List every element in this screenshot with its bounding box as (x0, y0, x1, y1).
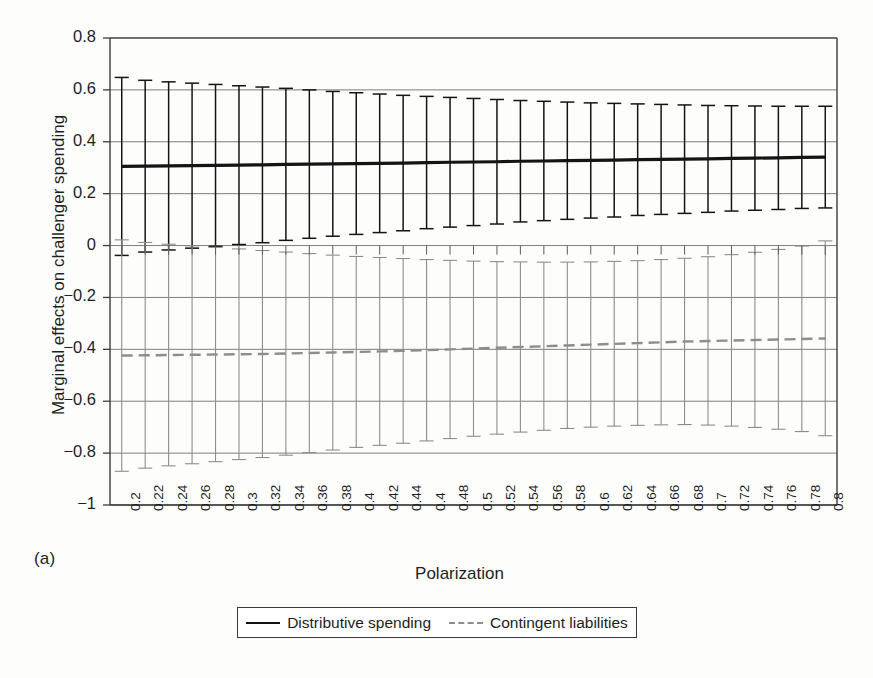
x-axis-tick-label: 0.6 (597, 492, 612, 511)
chart-legend: Distributive spending Contingent liabili… (237, 607, 637, 638)
figure-panel: Marginal effects on challenger spending … (0, 0, 873, 678)
x-axis-tick-label: 0.58 (573, 485, 588, 511)
y-axis-title: Marginal effects on challenger spending (49, 30, 69, 500)
y-axis-tick-label: −0.2 (0, 286, 96, 305)
x-axis-tick-label: 0.7 (714, 492, 729, 511)
x-axis-tick-label: 0.3 (245, 492, 260, 511)
legend-item-contingent-liabilities: Contingent liabilities (449, 614, 628, 632)
x-axis-tick-label: 0.22 (151, 485, 166, 511)
x-axis-tick-label: 0.24 (175, 485, 190, 511)
y-axis-tick-label: −0.8 (0, 442, 96, 461)
x-axis-tick-label: 0.4 (433, 492, 448, 511)
x-axis-tick-label: 0.42 (386, 485, 401, 511)
legend-swatch-dashed-line-icon (449, 622, 483, 624)
x-axis-tick-label: 0.48 (456, 485, 471, 511)
y-axis-tick-label: 0.4 (0, 131, 96, 150)
x-axis-tick-label: 0.5 (480, 492, 495, 511)
x-axis-tick-label: 0.66 (667, 485, 682, 511)
x-axis-tick-label: 0.68 (691, 485, 706, 511)
x-axis-tick-label: 0.78 (808, 485, 823, 511)
x-axis-tick-label: 0.76 (784, 485, 799, 511)
x-axis-tick-label: 0.38 (339, 485, 354, 511)
y-axis-tick-label: 0.6 (0, 79, 96, 98)
x-axis-tick-label: 0.64 (644, 485, 659, 511)
y-axis-tick-label: −0.6 (0, 390, 96, 409)
x-axis-tick-label: 0.32 (268, 485, 283, 511)
x-axis-tick-label: 0.8 (831, 492, 846, 511)
x-axis-title: Polarization (0, 564, 873, 584)
legend-swatch-solid-line-icon (246, 622, 280, 624)
x-axis-tick-label: 0.52 (503, 485, 518, 511)
x-axis-tick-label: 0.72 (737, 485, 752, 511)
x-axis-tick-label: 0.62 (620, 485, 635, 511)
x-axis-tick-label: 0.26 (198, 485, 213, 511)
x-axis-tick-label: 0.34 (292, 485, 307, 511)
legend-label-contingent-liabilities: Contingent liabilities (490, 614, 628, 632)
x-axis-tick-label: 0.2 (128, 492, 143, 511)
x-axis-tick-label: 0.44 (409, 485, 424, 511)
x-axis-tick-label: 0.36 (315, 485, 330, 511)
y-axis-tick-label: 0.8 (0, 27, 96, 46)
y-axis-tick-label: −0.4 (0, 338, 96, 357)
x-axis-tick-label: 0.4 (362, 492, 377, 511)
x-axis-tick-label: 0.56 (550, 485, 565, 511)
legend-label-distributive-spending: Distributive spending (287, 614, 431, 632)
y-axis-tick-label: 0 (0, 235, 96, 254)
x-axis-tick-label: 0.74 (761, 485, 776, 511)
x-axis-tick-label: 0.54 (526, 485, 541, 511)
legend-item-distributive-spending: Distributive spending (246, 614, 431, 632)
y-axis-tick-label: −1 (0, 494, 96, 513)
x-axis-tick-label: 0.28 (222, 485, 237, 511)
series-contingent-liabilities (115, 240, 833, 471)
y-axis-tick-label: 0.2 (0, 183, 96, 202)
